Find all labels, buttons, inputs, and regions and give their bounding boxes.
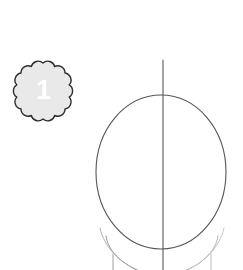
canvas-background	[0, 0, 243, 270]
step-badge[interactable]	[13, 61, 72, 121]
step-badge-shape[interactable]	[13, 61, 72, 121]
head-construction-drawing	[0, 0, 243, 270]
illustration-canvas: 1 Head construction guide - step 1 face …	[0, 0, 243, 270]
